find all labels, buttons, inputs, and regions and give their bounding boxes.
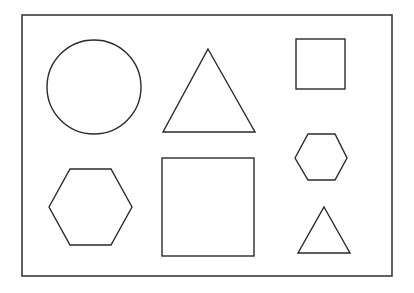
small-square (296, 39, 345, 89)
small-triangle (298, 207, 350, 253)
large-circle (47, 40, 141, 134)
large-hexagon (49, 169, 132, 245)
large-triangle (163, 49, 255, 132)
large-square (162, 158, 254, 256)
frame-border (22, 15, 392, 276)
small-hexagon (295, 134, 347, 180)
shapes-canvas (0, 0, 414, 293)
